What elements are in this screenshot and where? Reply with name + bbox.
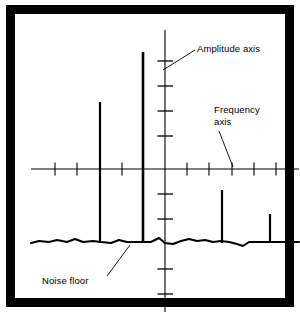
label-frequency-line1: Frequency bbox=[214, 104, 260, 115]
leader-line-amplitude bbox=[163, 50, 195, 70]
leader-line-frequency bbox=[219, 131, 233, 167]
label-frequency-axis: Frequencyaxis bbox=[214, 104, 260, 128]
outer-black-frame: Amplitude axis Frequencyaxis Noise floor bbox=[6, 5, 294, 307]
spectrum-plot-svg bbox=[30, 28, 300, 312]
label-noise-floor: Noise floor bbox=[42, 275, 89, 287]
plot-area bbox=[30, 28, 300, 312]
label-amplitude-axis: Amplitude axis bbox=[197, 43, 260, 55]
leader-line-noise bbox=[107, 245, 130, 276]
spectrum-spikes bbox=[100, 52, 270, 243]
spectrum-diagram-screenshot: Amplitude axis Frequencyaxis Noise floor bbox=[0, 0, 300, 312]
label-frequency-line2: axis bbox=[214, 116, 231, 127]
